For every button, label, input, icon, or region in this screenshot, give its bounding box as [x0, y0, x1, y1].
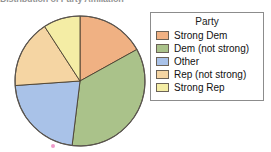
- legend-item-label: Dem (not strong): [174, 43, 249, 55]
- legend-swatch-icon: [156, 83, 169, 92]
- legend: Party Strong DemDem (not strong)OtherRep…: [150, 12, 264, 101]
- legend-swatch-icon: [156, 70, 169, 79]
- legend-swatch-icon: [156, 57, 169, 66]
- legend-item-label: Strong Dem: [174, 30, 227, 42]
- pie-slice-group: [15, 16, 145, 146]
- legend-item[interactable]: Other: [156, 55, 263, 68]
- legend-item-label: Rep (not strong): [174, 69, 246, 81]
- legend-item-label: Strong Rep: [174, 82, 225, 94]
- legend-item[interactable]: Rep (not strong): [156, 68, 263, 81]
- legend-item-label: Other: [174, 56, 199, 68]
- legend-item[interactable]: Strong Rep: [156, 81, 263, 94]
- legend-item[interactable]: Strong Dem: [156, 29, 263, 42]
- pie-chart-svg: [0, 0, 160, 152]
- scan-speck-icon: [51, 144, 55, 148]
- legend-item[interactable]: Dem (not strong): [156, 42, 263, 55]
- legend-swatch-icon: [156, 31, 169, 40]
- pie-slice[interactable]: [15, 81, 80, 146]
- chart-screenshot: Distribution of Party Affiliation Party …: [0, 0, 271, 152]
- pie-chart: [0, 0, 160, 152]
- legend-title: Party: [151, 16, 263, 27]
- legend-swatch-icon: [156, 44, 169, 53]
- legend-items: Strong DemDem (not strong)OtherRep (not …: [151, 29, 263, 94]
